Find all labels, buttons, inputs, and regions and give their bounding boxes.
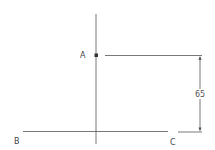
point-a-label: A (80, 51, 86, 60)
point-b-label: B (14, 137, 20, 146)
point-a-marker (95, 54, 99, 58)
geometry-diagram: 65 A B C (0, 0, 215, 150)
dimension-label: 65 (195, 90, 205, 99)
point-c-label: C (170, 138, 176, 147)
arrow-down-icon (199, 128, 202, 132)
arrow-up-icon (199, 56, 202, 60)
